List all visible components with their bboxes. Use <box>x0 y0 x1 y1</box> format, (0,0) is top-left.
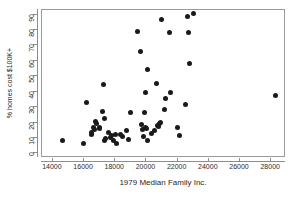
y-axis-title: % homes cost $100K+ <box>6 48 13 118</box>
x-axis-tick <box>114 158 115 162</box>
data-point <box>128 110 133 115</box>
data-point <box>124 128 129 133</box>
y-axis-tick-label: 0 <box>28 152 35 156</box>
data-point <box>158 120 163 125</box>
data-point <box>145 138 150 143</box>
x-axis-tick-label: 14000 <box>42 163 61 170</box>
x-axis-line <box>41 161 285 162</box>
y-axis-tick-label: 40 <box>28 91 35 99</box>
x-axis-title: 1979 Median Family Inc. <box>119 178 206 187</box>
y-axis-tick-label: 10 <box>28 137 35 145</box>
plot-panel <box>41 9 285 157</box>
x-axis-tick <box>270 158 271 162</box>
data-point <box>191 11 196 16</box>
y-axis-tick-label: 50 <box>28 75 35 83</box>
data-point <box>84 100 89 105</box>
data-point <box>163 96 168 101</box>
data-point <box>168 90 173 95</box>
scatter-plot-figure: 1400016000180002000022000240002600028000… <box>0 0 299 198</box>
x-axis-tick-label: 16000 <box>73 163 92 170</box>
x-axis-tick <box>52 158 53 162</box>
y-axis-line <box>37 9 38 157</box>
x-axis-tick-label: 20000 <box>136 163 155 170</box>
data-point <box>273 93 278 98</box>
x-axis-tick <box>177 158 178 162</box>
x-axis-tick-label: 26000 <box>229 163 248 170</box>
data-point <box>143 90 148 95</box>
y-axis-tick-label: 80 <box>28 29 35 37</box>
data-point <box>167 30 172 35</box>
x-axis-tick-label: 18000 <box>105 163 124 170</box>
data-point <box>114 141 119 146</box>
data-point <box>183 102 188 107</box>
data-point <box>97 125 102 130</box>
x-axis-tick <box>208 158 209 162</box>
data-point <box>145 67 150 72</box>
data-point <box>144 126 149 131</box>
data-point <box>162 107 167 112</box>
data-point <box>154 81 159 86</box>
data-point <box>159 17 164 22</box>
data-point <box>120 134 125 139</box>
x-axis-tick <box>83 158 84 162</box>
data-point <box>126 137 131 142</box>
x-axis-tick-label: 28000 <box>260 163 279 170</box>
x-axis-tick-label: 24000 <box>198 163 217 170</box>
data-points-layer <box>42 10 284 156</box>
data-point <box>177 133 182 138</box>
data-point <box>100 109 105 114</box>
data-point <box>185 14 190 19</box>
data-point <box>142 110 147 115</box>
data-point <box>60 138 65 143</box>
y-axis-tick-label: 90 <box>28 14 35 22</box>
data-point <box>175 125 180 130</box>
y-axis-tick-label: 20 <box>28 122 35 130</box>
y-axis-tick-label: 70 <box>28 44 35 52</box>
data-point <box>101 82 106 87</box>
data-point <box>187 61 192 66</box>
x-axis-tick <box>239 158 240 162</box>
data-point <box>138 49 143 54</box>
data-point <box>135 29 140 34</box>
data-point <box>186 30 191 35</box>
y-axis-tick-label: 60 <box>28 60 35 68</box>
data-point <box>81 141 86 146</box>
data-point <box>102 116 107 121</box>
y-axis-tick-label: 30 <box>28 106 35 114</box>
x-axis-tick-label: 22000 <box>167 163 186 170</box>
x-axis-tick <box>145 158 146 162</box>
